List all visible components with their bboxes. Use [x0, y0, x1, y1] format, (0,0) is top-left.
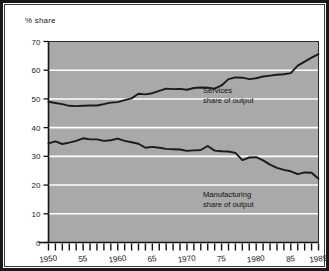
y-tick-label-40: 40 [32, 124, 41, 133]
x-axis-ticks: 1950551960651970751980851989 [39, 244, 328, 265]
y-tick-label-20: 20 [32, 181, 41, 190]
annotation-services-line2: share of output [203, 96, 255, 105]
y-tick-label-70: 70 [32, 38, 41, 47]
annotation-services-line1: Services [203, 86, 232, 95]
x-tick-label-1960: 1960 [108, 253, 127, 264]
annotation-manufacturing-line2: share of output [203, 200, 255, 209]
x-tick-label-1965: 65 [147, 254, 157, 264]
x-tick-label-1989: 1989 [309, 253, 328, 264]
y-tick-label-30: 30 [32, 152, 41, 161]
line-chart-svg: 010203040506070 195055196065197075198085… [3, 3, 329, 271]
x-tick-label-1970: 1970 [177, 253, 196, 264]
y-tick-label-0: 0 [36, 239, 41, 248]
y-tick-label-10: 10 [32, 210, 41, 219]
chart-figure: % share 010203040506070 1950551960651970… [0, 0, 329, 271]
annotation-manufacturing-line1: Manufacturing [203, 190, 251, 199]
plot-container: 010203040506070 195055196065197075198085… [3, 3, 329, 271]
x-tick-label-1950: 1950 [39, 253, 58, 264]
y-tick-label-60: 60 [32, 66, 41, 75]
y-axis-ticks: 010203040506070 [32, 38, 49, 248]
y-tick-label-50: 50 [32, 95, 41, 104]
plot-background [49, 42, 319, 243]
x-tick-label-1980: 1980 [247, 253, 266, 264]
x-tick-label-1955: 55 [78, 254, 88, 264]
plot-area-fill [49, 42, 319, 243]
x-tick-label-1985: 85 [286, 254, 296, 264]
x-tick-label-1975: 75 [216, 254, 226, 264]
